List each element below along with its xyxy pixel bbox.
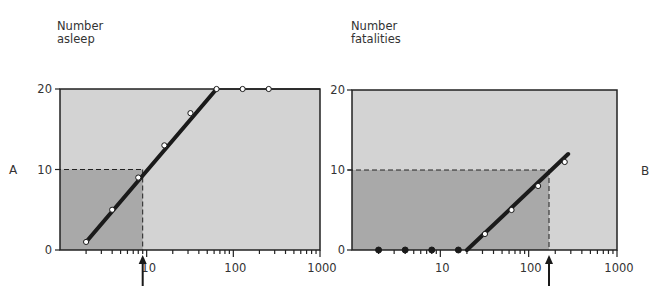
data-point-open: [83, 239, 88, 244]
data-point-open: [509, 207, 514, 212]
data-point-open: [188, 111, 193, 116]
data-point-open: [110, 207, 115, 212]
shaded-region: [60, 170, 143, 251]
arrow-up-icon: [139, 255, 147, 264]
y-tick-label: 20: [37, 82, 52, 96]
data-point-open: [536, 183, 541, 188]
x-tick-label: 10: [435, 261, 450, 275]
shaded-region: [352, 170, 549, 250]
data-point-filled: [402, 247, 408, 253]
y-tick-label: 0: [338, 243, 345, 257]
data-point-open: [162, 143, 167, 148]
x-tick-label: 100: [224, 261, 246, 275]
y-tick-label: 10: [330, 163, 345, 177]
panel-b-chart: 01020101001000: [330, 83, 633, 286]
data-point-open: [240, 86, 245, 91]
dose-response-charts: 01020101001000 01020101001000: [0, 0, 649, 296]
data-point-filled: [376, 247, 382, 253]
data-point-open: [214, 86, 219, 91]
data-point-open: [136, 175, 141, 180]
x-tick-label: 1000: [307, 261, 336, 275]
y-tick-label: 20: [330, 83, 345, 97]
data-point-filled: [429, 247, 435, 253]
x-tick-label: 100: [520, 261, 542, 275]
x-tick-label: 1000: [604, 261, 633, 275]
data-point-open: [266, 86, 271, 91]
data-point-open: [562, 159, 567, 164]
y-tick-label: 10: [37, 163, 52, 177]
y-tick-label: 0: [45, 243, 52, 257]
data-point-filled: [455, 247, 461, 253]
panel-a-chart: 01020101001000: [37, 82, 336, 286]
arrow-up-icon: [545, 255, 553, 264]
data-point-open: [482, 231, 487, 236]
